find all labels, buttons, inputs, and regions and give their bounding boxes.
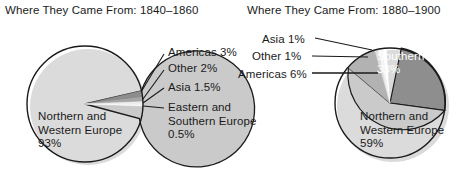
label-left-other: Other 2% — [168, 62, 217, 76]
label-right-northern-western-europe: Northern and Western Europe 59% — [360, 110, 452, 151]
label-left-northern-western-europe: Northern and Western Europe 93% — [38, 110, 133, 151]
label-right-americas: Americas 6% — [238, 68, 307, 82]
leader-line-right-asia — [315, 38, 372, 50]
leader-line-right-other — [312, 56, 368, 57]
label-left-eastern-southern-europe: Eastern and Southern Europe 0.5% — [168, 101, 258, 142]
label-right-asia: Asia 1% — [262, 33, 305, 47]
label-left-americas: Americas 3% — [168, 46, 237, 60]
label-right-other: Other 1% — [252, 50, 301, 64]
two-pie-chart-figure: Where They Came From: 1840–1860 Where Th… — [0, 0, 473, 191]
label-left-asia: Asia 1.5% — [168, 81, 221, 95]
pie-charts-svg — [0, 0, 473, 191]
label-right-eastern-southern-europe: Eastern and Southern Europe 33% — [377, 36, 471, 77]
